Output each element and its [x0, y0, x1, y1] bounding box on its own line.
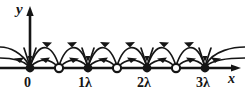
field-arrowhead — [67, 42, 77, 48]
field-arrowhead — [100, 42, 110, 48]
charge-marker-open — [55, 64, 63, 72]
field-arrowhead — [184, 42, 194, 48]
field-arrowhead — [159, 42, 169, 48]
charge-marker-filled — [201, 64, 210, 73]
x-tick-label-1-lambda: 1λ — [78, 76, 92, 90]
x-tick-label-3-lambda: 3λ — [196, 76, 210, 90]
y-axis-arrowhead — [26, 6, 33, 16]
charge-marker-open — [172, 64, 180, 72]
x-axis-label: x — [228, 72, 235, 86]
charge-marker-filled — [26, 64, 35, 73]
field-arrowhead — [125, 42, 135, 48]
y-axis-label: y — [16, 2, 23, 17]
field-arc-edge — [206, 58, 245, 66]
field-lines-group — [0, 47, 245, 67]
field-arrowhead — [42, 42, 52, 48]
field-line-diagram: y x 0 1λ 2λ 3λ — [0, 0, 245, 94]
field-arrowheads-group — [14, 42, 221, 63]
charge-marker-filled — [143, 64, 152, 73]
charge-marker-open — [113, 64, 121, 72]
charge-marker-filled — [84, 64, 93, 73]
x-tick-label-0: 0 — [24, 76, 31, 90]
x-tick-label-2-lambda: 2λ — [137, 76, 151, 90]
